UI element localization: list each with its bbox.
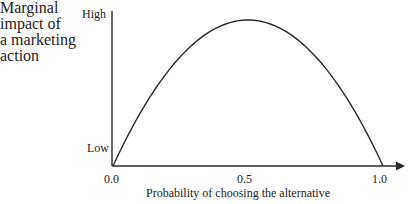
impact-curve [113,20,383,166]
plot-area [0,0,418,204]
x-axis-arrow-icon [396,162,405,171]
